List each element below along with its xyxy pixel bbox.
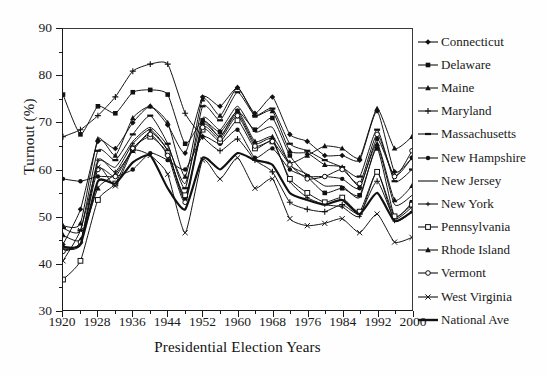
marker-x: [165, 172, 170, 177]
marker-square: [165, 92, 170, 97]
marker-open-circle: [253, 144, 258, 149]
legend-marker-x-icon: [417, 290, 439, 304]
marker-open-square: [410, 202, 412, 207]
marker-plus-small: [426, 202, 430, 206]
legend-item-new-hampshire[interactable]: New Hampshire: [417, 146, 547, 169]
marker-dash: [322, 159, 328, 161]
legend-label: Vermont: [441, 266, 486, 280]
marker-open-circle: [410, 148, 412, 153]
marker-plus: [217, 148, 223, 154]
marker-dash: [147, 115, 153, 117]
marker-dash: [130, 133, 136, 135]
y-tick-label: 80: [39, 68, 53, 82]
marker-x: [235, 155, 240, 160]
legend-marker-open-square-icon: [417, 220, 439, 234]
legend-item-maryland[interactable]: Maryland: [417, 100, 547, 123]
y-tick-mark: [56, 75, 62, 76]
y-tick-label: 90: [39, 21, 53, 35]
series-layer: [63, 29, 412, 310]
y-tick-label: 40: [39, 257, 53, 271]
legend-label: Maine: [441, 81, 474, 95]
marker-open-square: [305, 191, 310, 196]
y-tick-label: 50: [39, 210, 53, 224]
marker-open-circle: [113, 174, 118, 179]
legend-label: West Virginia: [441, 290, 512, 304]
x-tick-minor: [115, 311, 116, 314]
legend-item-delaware[interactable]: Delaware: [417, 53, 547, 76]
marker-circle: [426, 155, 430, 159]
marker-plus: [304, 206, 310, 212]
legend-label: National Ave: [441, 313, 509, 327]
legend-item-new-york[interactable]: New York: [417, 192, 547, 215]
marker-diamond: [322, 153, 328, 159]
series-pennsylvania: [63, 118, 412, 282]
legend-item-west-virginia[interactable]: West Virginia: [417, 285, 547, 308]
legend-item-new-jersey[interactable]: New Jersey: [417, 169, 547, 192]
legend-label: New Jersey: [441, 174, 501, 188]
legend-marker-circle-icon: [417, 151, 439, 165]
legend-label: Rhode Island: [441, 243, 510, 257]
marker-triangle: [409, 134, 412, 139]
marker-circle: [63, 177, 65, 181]
marker-square: [288, 153, 293, 158]
legend-marker-diamond-icon: [417, 35, 439, 49]
marker-dash: [235, 91, 241, 93]
legend-label: Connecticut: [441, 35, 504, 49]
y-axis-title: Turnout (%): [21, 62, 38, 212]
marker-triangle: [409, 183, 412, 188]
x-tick-mark: [202, 311, 203, 317]
marker-open-circle: [200, 125, 205, 130]
legend-item-rhode-island[interactable]: Rhode Island: [417, 239, 547, 262]
marker-open-square: [235, 118, 240, 123]
marker-square: [113, 111, 118, 116]
x-tick-minor: [290, 311, 291, 314]
marker-open-circle: [218, 137, 223, 142]
marker-x: [183, 230, 188, 235]
legend-item-pennsylvania[interactable]: Pennsylvania: [417, 216, 547, 239]
legend-marker-dash-icon: [417, 127, 439, 141]
x-tick-minor: [185, 311, 186, 314]
x-tick-minor: [80, 311, 81, 314]
series-line: [63, 120, 412, 279]
plot-area: [62, 28, 413, 311]
x-tick-mark: [97, 311, 98, 317]
legend-item-national-ave[interactable]: National Ave: [417, 308, 547, 331]
x-tick-mark: [273, 311, 274, 317]
marker-square: [96, 104, 101, 109]
legend-item-connecticut[interactable]: Connecticut: [417, 30, 547, 53]
x-tick-minor: [325, 311, 326, 314]
marker-dash: [217, 119, 223, 121]
marker-x: [357, 230, 362, 235]
y-tick-minor: [59, 146, 62, 147]
marker-open-circle: [63, 249, 65, 254]
marker-plus: [147, 61, 153, 67]
x-tick-minor: [220, 311, 221, 314]
legend-item-maine[interactable]: Maine: [417, 76, 547, 99]
y-tick-minor: [59, 287, 62, 288]
marker-circle: [270, 146, 274, 150]
legend-item-massachusetts[interactable]: Massachusetts: [417, 123, 547, 146]
chart-figure: 30405060708090 Turnout (%) 1920192819361…: [0, 0, 547, 375]
marker-square: [148, 88, 153, 93]
x-tick-minor: [360, 311, 361, 314]
y-tick-label: 70: [39, 115, 53, 129]
marker-triangle: [392, 145, 398, 150]
y-tick-mark: [56, 264, 62, 265]
y-tick-mark: [56, 122, 62, 123]
legend-marker-square-icon: [417, 58, 439, 72]
marker-open-circle: [340, 167, 345, 172]
marker-square: [218, 130, 223, 135]
legend-item-vermont[interactable]: Vermont: [417, 262, 547, 285]
marker-plus: [425, 108, 431, 114]
marker-triangle: [322, 162, 328, 167]
marker-plus: [165, 61, 171, 67]
y-tick-minor: [59, 99, 62, 100]
marker-open-circle: [392, 174, 397, 179]
marker-triangle: [374, 106, 380, 111]
marker-diamond: [339, 153, 345, 159]
marker-square: [270, 116, 275, 121]
y-tick-minor: [59, 193, 62, 194]
marker-open-square: [96, 198, 101, 203]
marker-open-square: [63, 277, 65, 282]
marker-open-square: [78, 258, 83, 263]
